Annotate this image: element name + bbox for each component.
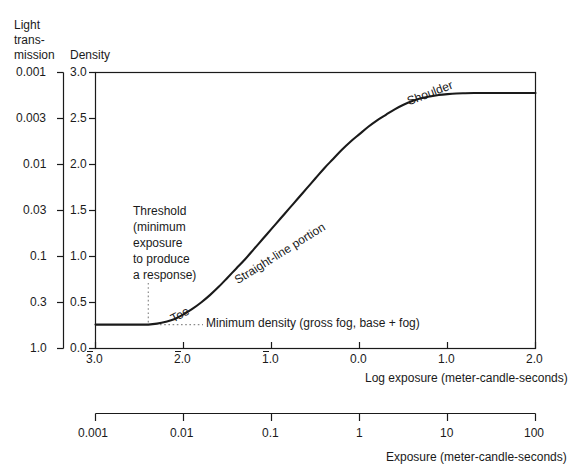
- characteristic-curve: [96, 93, 536, 325]
- x-axis2-exposure-scale: [96, 414, 536, 422]
- y-axis-ticks: [89, 73, 96, 349]
- left-transmission-axis: [57, 73, 64, 349]
- x-axis-ticks: [96, 342, 536, 349]
- plot-frame: [96, 73, 536, 349]
